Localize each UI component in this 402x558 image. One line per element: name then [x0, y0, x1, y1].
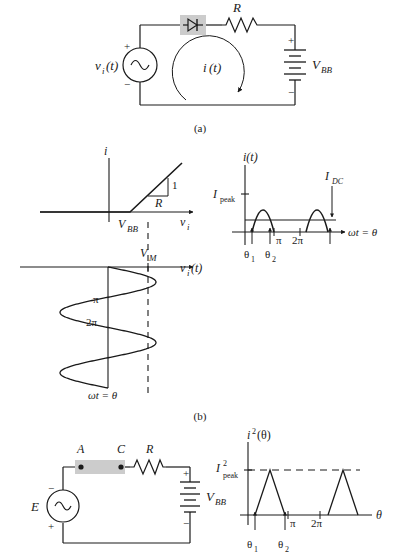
source-label-v: v: [95, 58, 101, 73]
battery-c-minus: −: [183, 517, 189, 529]
vin-tick-label-2pi: 2π: [86, 316, 98, 328]
vin-axis-v: v: [180, 261, 186, 275]
i2-peak-sup: 2: [223, 459, 227, 468]
it-tick-label-2pi: 2π: [292, 234, 304, 246]
it-dc-i: I: [324, 169, 330, 183]
i2-y-arg: (θ): [257, 428, 271, 442]
it-tick-label-pi: π: [276, 234, 282, 246]
it-dc-label: I DC: [324, 169, 344, 186]
it-peak-sub: peak: [220, 195, 235, 204]
resistor-label: R: [232, 0, 241, 15]
vin-tick-label-pi: π: [93, 293, 99, 305]
it-x-label: ωt = θ: [348, 226, 378, 238]
it-theta1-sub: 1: [251, 255, 255, 264]
iv-knee-sub: BB: [127, 224, 138, 234]
it-theta1-label: θ 1: [244, 248, 255, 264]
caption-a: (a): [194, 122, 207, 135]
caption-b: (b): [194, 410, 207, 423]
battery-plus-sign: +: [288, 34, 294, 46]
iv-slope-run: R: [154, 196, 163, 210]
iv-x-label-sub: i: [187, 222, 190, 232]
loop-current-arg: (t): [209, 60, 221, 75]
i2-y-i: i: [247, 428, 250, 442]
i2-x-label: θ: [376, 508, 382, 522]
vin-axis-label: v i (t): [180, 261, 202, 278]
circuit-a: R + − v i (t) + − V BB i: [95, 0, 332, 105]
i2-peak-i: I: [215, 461, 221, 475]
it-theta1: θ: [244, 248, 249, 260]
source-label: v i (t): [95, 58, 118, 76]
plot-iv: 1 R i v i V BB: [40, 144, 193, 234]
resistor-c-icon: [130, 460, 166, 474]
source-label-sub: i: [102, 66, 105, 76]
vin-time-label: ωt = θ: [88, 389, 118, 401]
it-peak-i: I: [212, 187, 218, 201]
battery-c-label: V BB: [206, 489, 226, 507]
plot-vin: V M v i (t) π 2π ωt = θ: [20, 222, 202, 401]
i2-theta2-label: θ 2: [278, 538, 289, 554]
i2-theta1: θ: [247, 538, 252, 550]
source-minus-sign: −: [124, 78, 130, 90]
vin-vm-sub: M: [148, 253, 157, 263]
vin-axis-arg: (t): [191, 261, 202, 275]
source-c-plus: +: [48, 520, 54, 532]
source-label-arg: (t): [106, 58, 118, 73]
iv-knee-v: V: [118, 217, 127, 231]
i2-pulse-2: [328, 470, 358, 515]
i2-theta1-sub: 1: [254, 545, 258, 554]
iv-x-label: v i: [180, 215, 190, 232]
i2-peak-sub: peak: [223, 471, 238, 480]
ac-source-c-icon: [47, 490, 79, 522]
resistor-c-label: R: [145, 442, 154, 456]
source-c-label: E: [30, 499, 39, 514]
battery-minus-sign: −: [288, 86, 294, 98]
i2-pulse-1: [255, 470, 285, 515]
it-theta2-label: θ 2: [265, 248, 276, 264]
node-a-label: A: [76, 442, 85, 456]
iv-knee-label: V BB: [118, 217, 138, 234]
loop-current-label: i (t): [203, 60, 221, 75]
i2-peak-label: I 2 peak: [215, 459, 238, 480]
it-peak-label: I peak: [212, 187, 235, 204]
circuit-c: A C R − + E + − V BB: [30, 442, 226, 543]
plot-i2: i 2 (θ) I 2 peak π 2π θ θ 1 θ 2: [215, 427, 382, 554]
i2-tick-label-2pi: 2π: [311, 517, 323, 529]
it-y-label: i(t): [243, 150, 258, 164]
node-c-dot: [118, 464, 123, 469]
iv-y-label: i: [104, 144, 107, 158]
circuit-c-wires: [63, 467, 190, 543]
battery-icon: [284, 50, 306, 80]
node-c-label: C: [117, 442, 126, 456]
resistor-icon: [222, 18, 262, 32]
ac-source-icon: [123, 48, 157, 82]
battery-c-icon: [180, 482, 200, 512]
it-pulse-2: [306, 210, 328, 232]
i2-tick-label-pi: π: [290, 517, 296, 529]
source-plus-sign: +: [124, 40, 130, 52]
iv-x-label-v: v: [180, 215, 186, 229]
it-theta2-sub: 2: [272, 255, 276, 264]
i2-y-sup: 2: [252, 427, 256, 436]
plot-it: I peak i(t) I DC π 2π ωt = θ θ 1 θ 2: [212, 150, 378, 264]
it-pulse-1: [252, 210, 274, 232]
iv-slope-rise: 1: [172, 179, 178, 191]
node-a-dot: [78, 464, 83, 469]
it-dc-sub: DC: [331, 177, 344, 186]
loop-current-i: i: [203, 60, 207, 75]
battery-c-sub: BB: [215, 497, 226, 507]
figure-svg: R + − v i (t) + − V BB i: [0, 0, 402, 558]
battery-label-sub: BB: [321, 65, 332, 75]
it-theta2: θ: [265, 248, 270, 260]
battery-label: V BB: [312, 57, 332, 75]
battery-c-plus: +: [183, 467, 189, 479]
i2-theta2: θ: [278, 538, 283, 550]
vin-axis-sub: i: [187, 268, 190, 278]
i2-theta1-label: θ 1: [247, 538, 258, 554]
source-c-minus: −: [48, 482, 54, 494]
i2-theta2-sub: 2: [285, 545, 289, 554]
i2-y-label: i 2 (θ): [247, 427, 271, 442]
figure-container: R + − v i (t) + − V BB i: [0, 0, 402, 558]
